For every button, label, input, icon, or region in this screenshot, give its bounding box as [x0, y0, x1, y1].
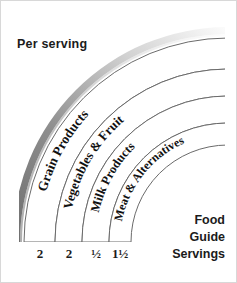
caption-line-servings: Servings — [172, 246, 225, 263]
servings-value-grain-products: 2 — [25, 246, 55, 262]
servings-value-vegetables-fruit: 2 — [54, 246, 84, 262]
servings-row: 2 2 ½ 1½ — [27, 246, 141, 264]
caption-line-food: Food — [172, 212, 225, 229]
food-guide-figure: Per serving — [0, 0, 237, 283]
food-guide-servings-caption: Food Guide Servings — [172, 212, 225, 263]
servings-value-meat-alternatives: 1½ — [105, 246, 135, 262]
caption-line-guide: Guide — [172, 229, 225, 246]
